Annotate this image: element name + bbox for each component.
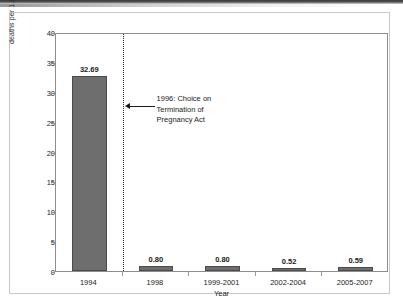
x-axis-title: Year bbox=[55, 289, 388, 298]
bar-value-label: 0.80 bbox=[193, 255, 252, 264]
y-axis-ticks: 0510152025303540 bbox=[27, 33, 55, 272]
x-tick-mark bbox=[321, 272, 322, 276]
policy-arrow-head-icon bbox=[125, 103, 130, 109]
bar[interactable] bbox=[139, 266, 174, 271]
x-tick-label: 2005-2007 bbox=[315, 278, 395, 287]
bar-slot: 0.80 bbox=[139, 32, 174, 271]
figure-frame: deaths per 1,000 abortions 0510152025303… bbox=[9, 12, 390, 294]
x-tick-mark bbox=[122, 272, 123, 276]
policy-annotation-text: 1996: Choice on Termination of Pregnancy… bbox=[157, 94, 212, 126]
policy-annotation-line-1: 1996: Choice on bbox=[157, 94, 212, 105]
plot-area: 32.690.800.800.520.59 1996: Choice on Te… bbox=[55, 33, 388, 272]
policy-marker-line bbox=[123, 34, 124, 271]
x-tick-mark bbox=[188, 272, 189, 276]
bar[interactable] bbox=[205, 266, 240, 271]
bar[interactable] bbox=[338, 267, 373, 271]
policy-arrow-shaft bbox=[129, 106, 155, 107]
bar-value-label: 32.69 bbox=[60, 65, 119, 74]
bar-slot: 32.69 bbox=[72, 32, 107, 271]
policy-annotation-line-3: Pregnancy Act bbox=[157, 115, 212, 126]
policy-annotation-line-2: Termination of bbox=[157, 105, 212, 116]
bar-slot: 0.52 bbox=[272, 32, 307, 271]
y-axis-title: deaths per 1,000 abortions bbox=[8, 0, 15, 71]
bar[interactable] bbox=[72, 76, 107, 271]
bar-slot: 0.59 bbox=[338, 32, 373, 271]
bar-value-label: 0.52 bbox=[260, 257, 319, 266]
y-axis-title-label: deaths per 1,000 abortions bbox=[8, 0, 15, 71]
bar-slot: 0.80 bbox=[205, 32, 240, 271]
scan-artifact-taper bbox=[0, 4, 403, 7]
bar-value-label: 0.59 bbox=[326, 256, 385, 265]
bar-value-label: 0.80 bbox=[127, 255, 186, 264]
x-tick-mark bbox=[255, 272, 256, 276]
bar[interactable] bbox=[272, 268, 307, 271]
